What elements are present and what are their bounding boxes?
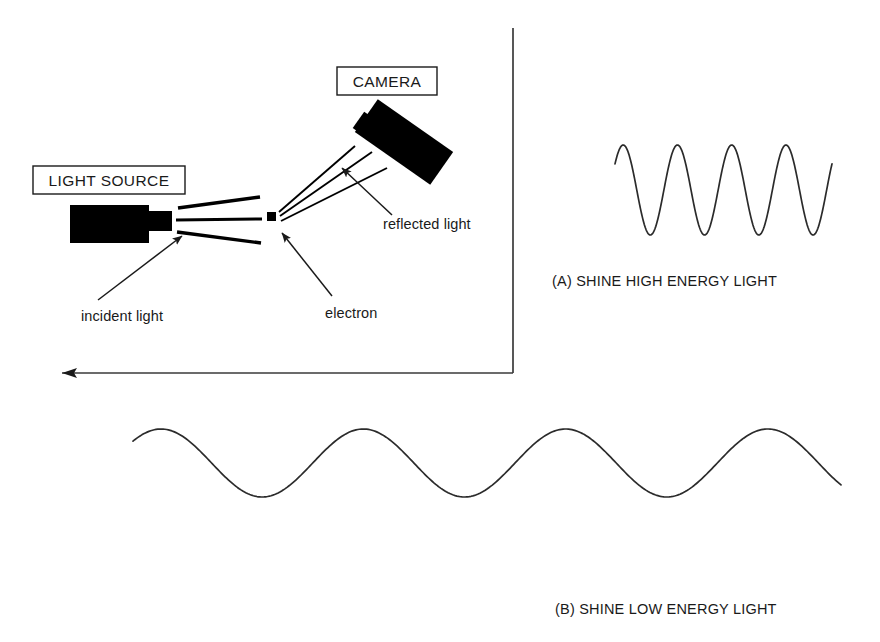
panel-a-group: (A) SHINE HIGH ENERGY LIGHT: [552, 145, 832, 289]
electron-pointer: [282, 233, 332, 296]
light-source-lens: [148, 211, 172, 231]
camera-body: [355, 99, 453, 185]
incident-beam-middle: [176, 219, 262, 220]
electron-dot-icon: [267, 212, 276, 221]
high-energy-wave: [615, 145, 832, 235]
incident-light-label: incident light: [81, 308, 163, 324]
incident-light-pointer: [98, 236, 182, 300]
heisenberg-microscope-figure: LIGHT SOURCE CAMERA: [0, 0, 880, 642]
electron-label: electron: [325, 305, 377, 321]
reflected-light-pointer: [342, 168, 392, 215]
incident-beam-group: [176, 197, 262, 243]
light-source-body: [70, 205, 149, 243]
panel-a-caption: (A) SHINE HIGH ENERGY LIGHT: [552, 273, 777, 289]
camera-group: CAMERA: [279, 67, 453, 221]
diagram-canvas: LIGHT SOURCE CAMERA: [0, 0, 880, 642]
camera-label-text: CAMERA: [353, 73, 422, 90]
reflected-light-label: reflected light: [383, 216, 471, 232]
light-source-group: LIGHT SOURCE: [33, 166, 262, 243]
light-source-icon: [70, 205, 172, 243]
low-energy-wave: [133, 429, 841, 497]
panel-b-group: (B) SHINE LOW ENERGY LIGHT: [133, 429, 841, 617]
panel-b-caption: (B) SHINE LOW ENERGY LIGHT: [555, 601, 777, 617]
light-source-label-text: LIGHT SOURCE: [49, 172, 170, 189]
reflected-beam-group: [279, 146, 387, 221]
camera-icon: [352, 97, 454, 185]
incident-beam-lower: [177, 232, 261, 243]
electron-group: [267, 212, 276, 221]
incident-beam-upper: [178, 197, 260, 208]
